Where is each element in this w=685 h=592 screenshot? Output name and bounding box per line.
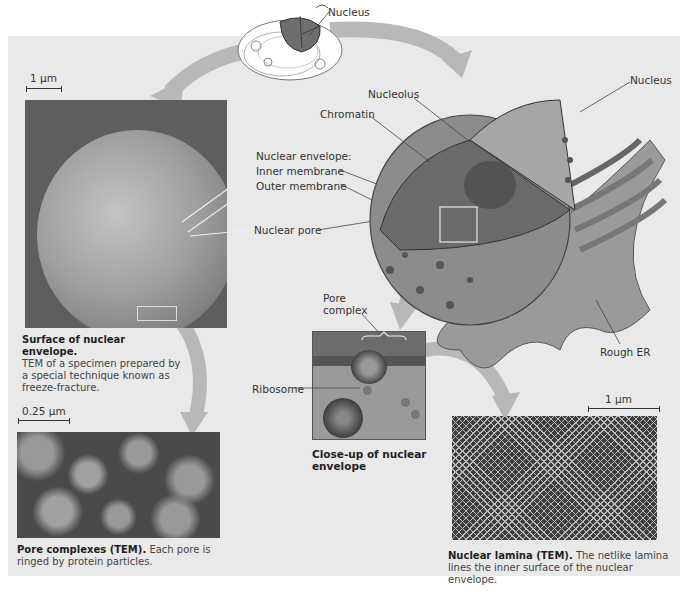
micrograph-pores [17, 432, 220, 538]
caption-pores: Pore complexes (TEM). Each pore is ringe… [17, 544, 232, 568]
scale-label-pores: 0.25 µm [22, 405, 66, 417]
caption-closeup-title: Close-up of nuclear envelope [312, 448, 427, 472]
micrograph-lamina [452, 416, 657, 540]
caption-surface-body: TEM of a specimen prepared by a special … [22, 358, 180, 393]
scale-bar-lamina [588, 406, 660, 412]
caption-lamina-title: Nuclear lamina (TEM). [448, 550, 573, 561]
caption-pores-title: Pore complexes (TEM). [17, 544, 146, 555]
caption-surface-title: Surface of nuclear envelope. [22, 334, 125, 357]
scale-bar-pores [18, 418, 70, 424]
caption-lamina: Nuclear lamina (TEM). The netlike lamina… [448, 550, 678, 586]
scale-label-lamina: 1 µm [605, 393, 632, 405]
caption-surface: Surface of nuclear envelope. TEM of a sp… [22, 334, 182, 394]
caption-closeup: Close-up of nuclear envelope [312, 448, 432, 472]
